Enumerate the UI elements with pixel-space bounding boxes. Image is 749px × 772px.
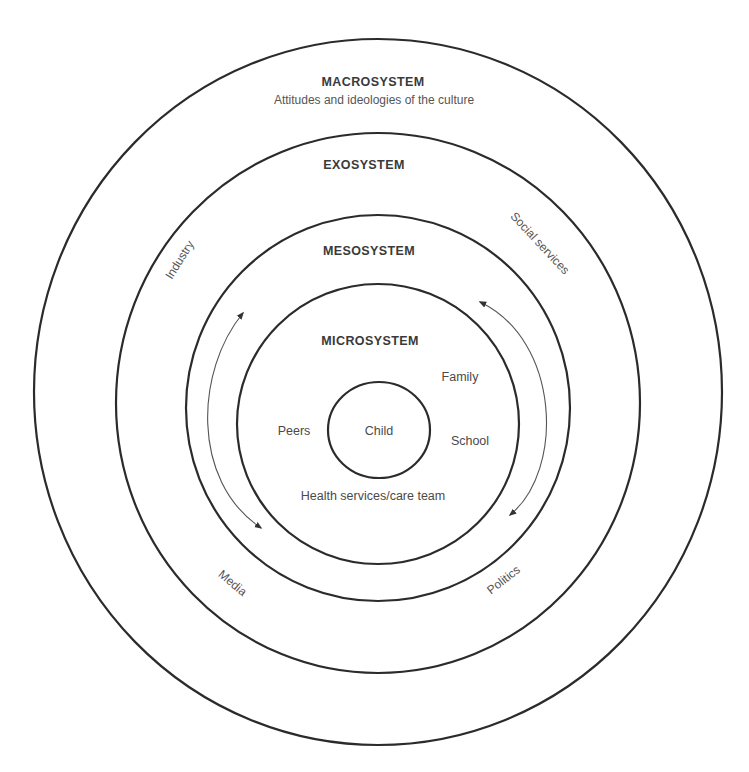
child-label: Child — [365, 424, 394, 438]
mesosystem-title: MESOSYSTEM — [323, 244, 415, 258]
ecological-systems-diagram: MACROSYSTEM Attitudes and ideologies of … — [0, 0, 749, 772]
macrosystem-subtitle: Attitudes and ideologies of the culture — [274, 93, 474, 107]
bidirectional-arrow-right — [480, 302, 546, 515]
microsystem-item-health-services: Health services/care team — [301, 489, 446, 503]
bidirectional-arrow-left — [208, 313, 261, 528]
mesosystem-ring — [186, 215, 570, 601]
microsystem-item-family: Family — [442, 370, 480, 384]
macrosystem-title: MACROSYSTEM — [321, 75, 424, 89]
exosystem-item-politics: Politics — [484, 563, 523, 597]
exosystem-item-social-services: Social services — [508, 209, 573, 277]
exosystem-item-industry: Industry — [162, 238, 196, 282]
microsystem-item-school: School — [451, 434, 489, 448]
exosystem-item-media: Media — [216, 567, 250, 599]
microsystem-item-peers: Peers — [278, 424, 311, 438]
microsystem-title: MICROSYSTEM — [321, 334, 418, 348]
macrosystem-ring — [34, 39, 722, 745]
exosystem-title: EXOSYSTEM — [323, 158, 404, 172]
